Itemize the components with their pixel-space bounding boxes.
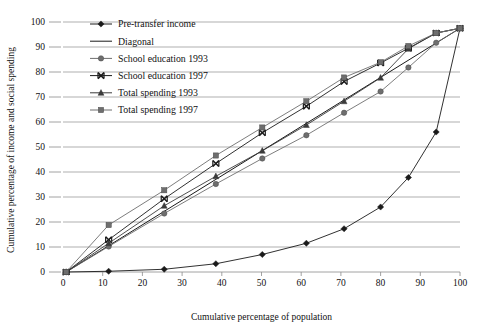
marker-square <box>341 75 346 80</box>
marker-square <box>457 26 462 31</box>
marker-x <box>213 161 219 167</box>
legend-item-total-spending-1997[interactable]: Total spending 1997 <box>90 104 198 115</box>
marker-circle <box>260 156 265 161</box>
y-tick-label: 50 <box>36 142 46 152</box>
y-tick-label: 40 <box>36 167 46 177</box>
marker-x <box>259 130 265 136</box>
x-tick-label: 60 <box>296 278 306 288</box>
marker-triangle <box>213 173 219 179</box>
legend-item-total-spending-1993[interactable]: Total spending 1993 <box>90 87 198 98</box>
x-axis-tick-labels: 0102030405060708090100 <box>61 278 468 288</box>
marker-circle <box>98 56 103 61</box>
y-tick-label: 10 <box>36 242 46 252</box>
marker-circle <box>433 40 438 45</box>
marker-diamond <box>106 268 112 274</box>
marker-circle <box>162 211 167 216</box>
y-tick-label: 80 <box>36 67 46 77</box>
x-tick-label: 20 <box>138 278 148 288</box>
x-tick-label: 10 <box>98 278 108 288</box>
marker-circle <box>213 181 218 186</box>
x-tick-label: 80 <box>376 278 386 288</box>
marker-circle <box>304 133 309 138</box>
x-tick-label: 50 <box>257 278 267 288</box>
marker-square <box>304 99 309 104</box>
marker-circle <box>341 110 346 115</box>
y-axis-tick-labels: 0102030405060708090100 <box>31 17 46 277</box>
marker-square <box>434 30 439 35</box>
chart-legend: Pre-transfer incomeDiagonalSchool educat… <box>90 18 208 115</box>
marker-x <box>303 103 309 109</box>
y-tick-label: 60 <box>36 117 46 127</box>
marker-square <box>213 153 218 158</box>
legend-label: School education 1997 <box>118 70 208 81</box>
marker-triangle <box>161 203 167 209</box>
legend-label: Total spending 1993 <box>118 87 198 98</box>
legend-item-diagonal[interactable]: Diagonal <box>90 36 154 47</box>
marker-circle <box>378 89 383 94</box>
legend-label: Diagonal <box>118 36 154 47</box>
y-tick-label: 100 <box>31 17 46 27</box>
marker-square <box>162 188 167 193</box>
y-axis-title: Cumulative percentage of income and soci… <box>6 47 16 253</box>
marker-diamond <box>259 251 265 257</box>
marker-diamond <box>161 266 167 272</box>
marker-diamond <box>303 240 309 246</box>
chart-container: 0102030405060708090100 01020304050607080… <box>0 0 481 328</box>
x-tick-label: 30 <box>177 278 187 288</box>
legend-label: Total spending 1997 <box>118 104 198 115</box>
marker-square <box>64 269 69 274</box>
y-tick-label: 30 <box>36 192 46 202</box>
marker-diamond <box>433 129 439 135</box>
legend-item-school-education-1993[interactable]: School education 1993 <box>90 53 208 64</box>
marker-square <box>98 107 103 112</box>
y-tick-label: 0 <box>40 267 45 277</box>
x-axis-title: Cumulative percentage of population <box>191 312 332 322</box>
marker-diamond <box>341 226 347 232</box>
marker-square <box>260 125 265 130</box>
x-tick-label: 90 <box>416 278 426 288</box>
legend-label: School education 1993 <box>118 53 208 64</box>
y-tick-label: 90 <box>36 42 46 52</box>
marker-square <box>378 60 383 65</box>
marker-square <box>106 222 111 227</box>
y-tick-label: 20 <box>36 217 46 227</box>
marker-triangle <box>259 148 265 154</box>
legend-label: Pre-transfer income <box>118 18 196 29</box>
x-tick-label: 70 <box>336 278 346 288</box>
x-tick-label: 0 <box>61 278 66 288</box>
x-tick-label: 40 <box>217 278 227 288</box>
lorenz-curve-chart: 0102030405060708090100 01020304050607080… <box>0 0 481 328</box>
y-tick-label: 70 <box>36 92 46 102</box>
legend-item-pre-transfer-income[interactable]: Pre-transfer income <box>90 18 196 29</box>
marker-circle <box>406 65 411 70</box>
marker-square <box>406 43 411 48</box>
marker-diamond <box>213 261 219 267</box>
x-tick-label: 100 <box>453 278 468 288</box>
